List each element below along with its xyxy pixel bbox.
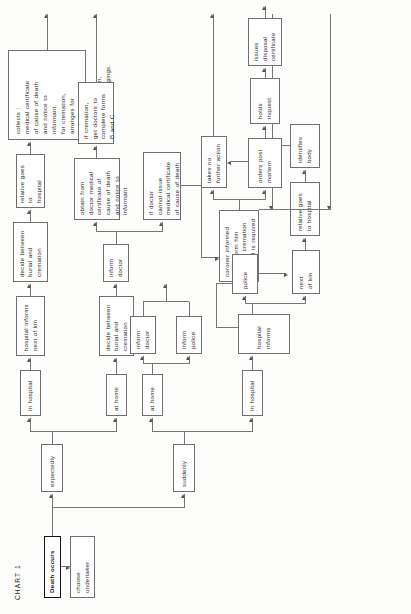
- connector-hospinforms-split: [252, 304, 253, 314]
- node-death-occurs: Death occurs: [44, 536, 61, 598]
- connector-spine-vertical: [52, 507, 184, 508]
- flowchart-canvas: CHART 1 Death occurs choose undertaker e…: [0, 0, 411, 614]
- arrowhead-up: [227, 161, 231, 165]
- connector-athomesud-vertical: [143, 363, 189, 364]
- arrowhead-right: [149, 418, 153, 422]
- node-suddenly: suddenly: [173, 444, 195, 492]
- arrowhead-right: [27, 142, 31, 146]
- arrowhead-right: [302, 238, 306, 242]
- arrowhead-right: [159, 222, 163, 226]
- arrowhead-right: [27, 418, 31, 422]
- connector-coroner-vertical: [213, 199, 265, 200]
- arrowhead-right: [49, 494, 53, 498]
- connector-coroner-lower-spine: [259, 209, 330, 210]
- arrowhead-right: [27, 210, 31, 214]
- connector-noaction-out: [213, 14, 214, 136]
- connector-cremation-out: [96, 14, 97, 82]
- connector-expectedly-out: [52, 432, 53, 444]
- chart-page: CHART 1 Death occurs choose undertaker e…: [0, 0, 411, 614]
- connector-pm-to-noaction: [231, 161, 248, 162]
- node-in-hospital-suddenly: in hospital: [242, 370, 263, 416]
- arrowhead-right: [163, 284, 167, 288]
- node-obtain-from-doctor: obtain from doctor medical certificate o…: [74, 158, 120, 220]
- connector-informpolice-merge: [189, 302, 190, 316]
- connector-suddenly-split: [152, 431, 252, 432]
- chart-title: CHART 1: [14, 564, 21, 600]
- node-holds-inquest: holds inquest: [250, 78, 280, 124]
- arrowhead-right: [242, 296, 246, 300]
- arrowhead-right: [113, 284, 117, 288]
- connector-informdocsud-merge: [143, 302, 144, 316]
- arrowhead-right: [262, 6, 266, 10]
- connector-police-up2: [216, 327, 239, 328]
- arrowhead-right: [27, 284, 31, 288]
- node-if-doctor-cannot-issue: if doctor cannot issue medical certifica…: [143, 152, 181, 220]
- arrowhead-right: [262, 190, 266, 194]
- node-at-home-suddenly: at home: [142, 374, 163, 416]
- arrowhead-right: [186, 356, 190, 360]
- arrowhead-down: [66, 566, 70, 570]
- connector-hospinforms-vertical: [245, 303, 305, 304]
- node-decide-burial-cremation-home: decide between burial and cremation: [99, 296, 134, 356]
- connector-expectedly-split: [30, 431, 116, 432]
- arrowhead-right: [93, 146, 97, 150]
- node-inform-police: inform police: [176, 316, 202, 354]
- arrowhead-down: [284, 273, 288, 277]
- node-hospital-informs: hospital informs: [238, 314, 290, 354]
- connector-lower-return-line: [330, 14, 331, 210]
- arrowhead-right: [262, 68, 266, 72]
- connector-police-left: [216, 283, 217, 328]
- connector-police-nextofkin: [258, 273, 286, 274]
- arrowhead-right: [93, 222, 97, 226]
- connector-ifdoc-down: [181, 185, 201, 186]
- node-choose-undertaker: choose undertaker: [70, 536, 95, 598]
- connector-death-main: [52, 508, 53, 536]
- connector-collects-out: [47, 14, 48, 50]
- arrowhead-right: [302, 296, 306, 300]
- node-expectedly: expectedly: [41, 444, 63, 492]
- connector-coroner-split: [239, 200, 240, 210]
- arrowhead-right: [93, 14, 97, 18]
- arrowhead-right: [210, 190, 214, 194]
- node-inform-doctor-suddenly: inform doctor: [130, 316, 156, 354]
- node-takes-no-further-action: takes no further action: [201, 136, 227, 188]
- arrowhead-right: [44, 14, 48, 18]
- node-at-home-expectedly: at home: [106, 374, 127, 416]
- arrowhead-right: [27, 358, 31, 362]
- connector-informdoc-vertical: [96, 231, 162, 232]
- connector-ifdoc-left: [201, 185, 202, 258]
- node-decide-burial-cremation-hospital: decide between burial and cremation: [13, 222, 48, 282]
- arrowhead-right: [181, 494, 185, 498]
- node-relative-goes-to-hospital-top: relative goes to hospital: [16, 154, 45, 208]
- node-next-of-kin: next of kin: [292, 250, 320, 294]
- node-collects: collects : medical certificate of cause …: [8, 50, 86, 140]
- arrowhead-right: [249, 356, 253, 360]
- connector-suddenly-out: [184, 432, 185, 444]
- node-police: police: [232, 254, 258, 294]
- connector-informdoc-split: [116, 232, 117, 244]
- connector-police-up: [216, 283, 232, 284]
- arrowhead-right: [262, 126, 266, 130]
- arrowhead-right: [113, 358, 117, 362]
- node-issues-disposal-certificate: issues disposal certificate: [248, 18, 282, 66]
- node-orders-post-mortem: orders post mortem: [248, 138, 282, 188]
- node-in-hospital-expectedly: in hospital: [20, 370, 41, 416]
- arrowhead-right: [140, 356, 144, 360]
- arrowhead-right: [113, 418, 117, 422]
- connector-athomesud-split: [152, 364, 153, 374]
- node-identifies-body: identifies body: [290, 124, 320, 168]
- arrowhead-right: [249, 418, 253, 422]
- node-hospital-informs-next-of-kin: hospital informs next of kin: [16, 296, 45, 356]
- arrowhead-right: [302, 170, 306, 174]
- arrowhead-right: [210, 14, 214, 18]
- node-inform-doctor-expectedly: inform doctor: [103, 244, 129, 282]
- node-if-cremation-forms-b-and-c: if cremation, get doctors to complete fo…: [78, 82, 114, 144]
